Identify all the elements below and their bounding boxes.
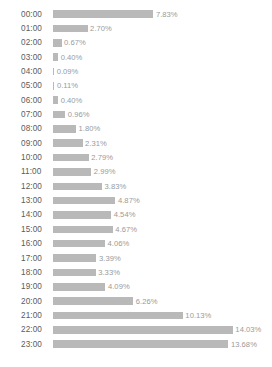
bar[interactable] bbox=[53, 326, 233, 334]
category-label: 13:00 bbox=[0, 196, 46, 205]
bar-track: 0.11% bbox=[53, 79, 270, 93]
bar-track: 2.79% bbox=[53, 150, 270, 164]
bar[interactable] bbox=[53, 168, 91, 176]
value-label: 2.31% bbox=[85, 139, 107, 148]
bar-track: 0.96% bbox=[53, 107, 270, 121]
bar-track: 1.80% bbox=[53, 122, 270, 136]
bar-track: 0.67% bbox=[53, 36, 270, 50]
bar-track: 2.70% bbox=[53, 21, 270, 35]
chart-row: 17:003.39% bbox=[0, 251, 272, 265]
category-label: 22:00 bbox=[0, 325, 46, 334]
bar[interactable] bbox=[53, 340, 228, 348]
category-label: 20:00 bbox=[0, 297, 46, 306]
chart-row: 08:001.80% bbox=[0, 122, 272, 136]
bar-track: 4.09% bbox=[53, 280, 270, 294]
bar[interactable] bbox=[53, 297, 133, 305]
chart-row: 16:004.06% bbox=[0, 237, 272, 251]
bar[interactable] bbox=[53, 197, 115, 205]
value-label: 0.40% bbox=[61, 53, 83, 62]
bar-track: 2.99% bbox=[53, 165, 270, 179]
bar-track: 13.68% bbox=[53, 337, 270, 351]
bar[interactable] bbox=[53, 96, 58, 104]
value-label: 3.83% bbox=[105, 182, 127, 191]
value-label: 10.13% bbox=[185, 311, 211, 320]
bar[interactable] bbox=[53, 25, 88, 33]
value-label: 0.96% bbox=[68, 110, 90, 119]
bar-track: 3.39% bbox=[53, 251, 270, 265]
chart-row: 03:000.40% bbox=[0, 50, 272, 64]
bar[interactable] bbox=[53, 39, 62, 47]
chart-row: 14:004.54% bbox=[0, 208, 272, 222]
hourly-distribution-bar-chart: 00:007.83%01:002.70%02:000.67%03:000.40%… bbox=[0, 0, 272, 367]
category-label: 03:00 bbox=[0, 53, 46, 62]
bar[interactable] bbox=[53, 68, 54, 76]
chart-row: 06:000.40% bbox=[0, 93, 272, 107]
category-label: 14:00 bbox=[0, 210, 46, 219]
category-label: 00:00 bbox=[0, 10, 46, 19]
value-label: 0.09% bbox=[57, 67, 79, 76]
bar-track: 14.03% bbox=[53, 323, 270, 337]
category-label: 01:00 bbox=[0, 24, 46, 33]
bar[interactable] bbox=[53, 312, 183, 320]
value-label: 1.80% bbox=[79, 124, 101, 133]
chart-row: 20:006.26% bbox=[0, 294, 272, 308]
bar-track: 3.33% bbox=[53, 265, 270, 279]
category-label: 21:00 bbox=[0, 311, 46, 320]
bar[interactable] bbox=[53, 111, 65, 119]
value-label: 0.11% bbox=[57, 81, 78, 90]
value-label: 2.79% bbox=[91, 153, 113, 162]
chart-row: 12:003.83% bbox=[0, 179, 272, 193]
value-label: 4.87% bbox=[118, 196, 140, 205]
category-label: 09:00 bbox=[0, 139, 46, 148]
bar[interactable] bbox=[53, 283, 105, 291]
bar[interactable] bbox=[53, 10, 153, 18]
bar[interactable] bbox=[53, 125, 76, 133]
chart-row: 13:004.87% bbox=[0, 193, 272, 207]
bar[interactable] bbox=[53, 254, 96, 262]
value-label: 4.06% bbox=[108, 239, 130, 248]
value-label: 0.40% bbox=[61, 96, 83, 105]
bar-track: 4.67% bbox=[53, 222, 270, 236]
bar[interactable] bbox=[53, 154, 89, 162]
bar[interactable] bbox=[53, 226, 113, 234]
chart-row: 15:004.67% bbox=[0, 222, 272, 236]
bar-track: 4.54% bbox=[53, 208, 270, 222]
category-label: 15:00 bbox=[0, 225, 46, 234]
bar-track: 3.83% bbox=[53, 179, 270, 193]
category-label: 07:00 bbox=[0, 110, 46, 119]
category-label: 04:00 bbox=[0, 67, 46, 76]
bar[interactable] bbox=[53, 183, 102, 191]
bar-track: 0.40% bbox=[53, 50, 270, 64]
chart-row: 21:0010.13% bbox=[0, 308, 272, 322]
chart-row: 09:002.31% bbox=[0, 136, 272, 150]
value-label: 4.67% bbox=[115, 225, 137, 234]
bar[interactable] bbox=[53, 53, 58, 61]
category-label: 12:00 bbox=[0, 182, 46, 191]
chart-row: 23:0013.68% bbox=[0, 337, 272, 351]
chart-row: 00:007.83% bbox=[0, 7, 272, 21]
category-label: 02:00 bbox=[0, 38, 46, 47]
category-label: 06:00 bbox=[0, 96, 46, 105]
value-label: 3.39% bbox=[99, 254, 121, 263]
category-label: 11:00 bbox=[0, 167, 46, 176]
chart-row: 02:000.67% bbox=[0, 36, 272, 50]
bar[interactable] bbox=[53, 240, 105, 248]
category-label: 05:00 bbox=[0, 81, 46, 90]
category-label: 18:00 bbox=[0, 268, 46, 277]
bar-track: 0.40% bbox=[53, 93, 270, 107]
category-label: 19:00 bbox=[0, 282, 46, 291]
chart-row: 19:004.09% bbox=[0, 280, 272, 294]
chart-row: 18:003.33% bbox=[0, 265, 272, 279]
bar[interactable] bbox=[53, 82, 54, 90]
value-label: 7.83% bbox=[156, 10, 178, 19]
value-label: 2.99% bbox=[94, 167, 116, 176]
category-label: 16:00 bbox=[0, 239, 46, 248]
chart-row: 10:002.79% bbox=[0, 150, 272, 164]
bar[interactable] bbox=[53, 139, 83, 147]
bar[interactable] bbox=[53, 269, 96, 277]
bar[interactable] bbox=[53, 211, 111, 219]
category-label: 10:00 bbox=[0, 153, 46, 162]
value-label: 14.03% bbox=[235, 325, 261, 334]
value-label: 13.68% bbox=[231, 340, 257, 349]
chart-row: 01:002.70% bbox=[0, 21, 272, 35]
